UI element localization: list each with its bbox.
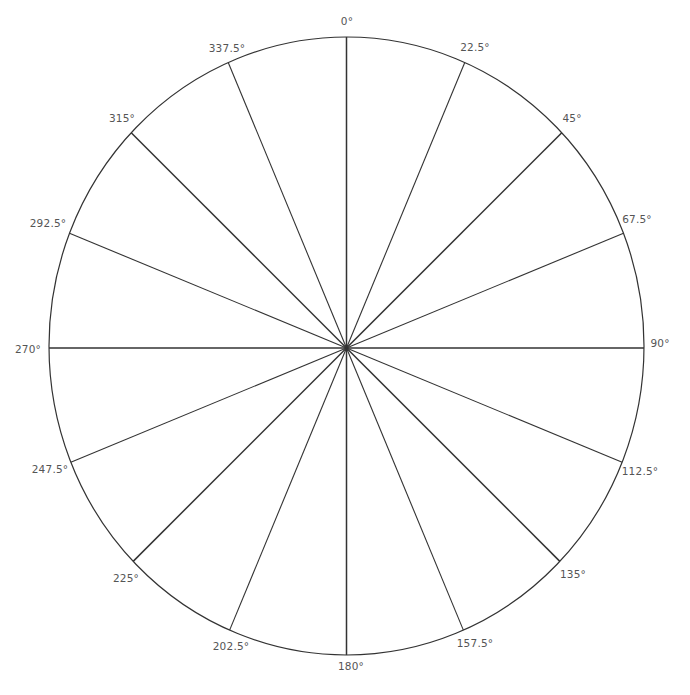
spoke-67-5 xyxy=(347,233,624,348)
spoke-202-5 xyxy=(230,348,347,630)
angle-label: 202.5° xyxy=(213,640,250,652)
angle-label: 135° xyxy=(560,568,586,580)
angle-label: 112.5° xyxy=(622,465,659,477)
spoke-292-5 xyxy=(70,233,347,348)
spokes xyxy=(49,37,644,655)
spoke-315 xyxy=(131,133,346,348)
spoke-247-5 xyxy=(71,348,347,462)
angle-label: 67.5° xyxy=(622,213,652,225)
spoke-135 xyxy=(347,348,560,561)
angle-label: 45° xyxy=(562,112,581,124)
spoke-225 xyxy=(133,348,346,561)
spoke-112-5 xyxy=(347,348,623,462)
angle-label: 337.5° xyxy=(209,42,246,54)
angle-label: 90° xyxy=(650,337,669,349)
angle-label: 270° xyxy=(15,343,41,355)
angle-label: 157.5° xyxy=(457,637,494,649)
spoke-337-5 xyxy=(228,62,346,348)
angle-label: 0° xyxy=(341,15,353,27)
spoke-45 xyxy=(347,133,562,348)
angle-label: 180° xyxy=(338,660,364,672)
angle-wheel xyxy=(0,0,690,695)
spoke-22-5 xyxy=(347,62,465,348)
angle-label: 292.5° xyxy=(30,217,67,229)
spoke-157-5 xyxy=(347,348,464,630)
angle-label: 225° xyxy=(113,572,139,584)
angle-label: 315° xyxy=(109,112,135,124)
angle-label: 247.5° xyxy=(32,463,69,475)
angle-label: 22.5° xyxy=(460,41,490,53)
